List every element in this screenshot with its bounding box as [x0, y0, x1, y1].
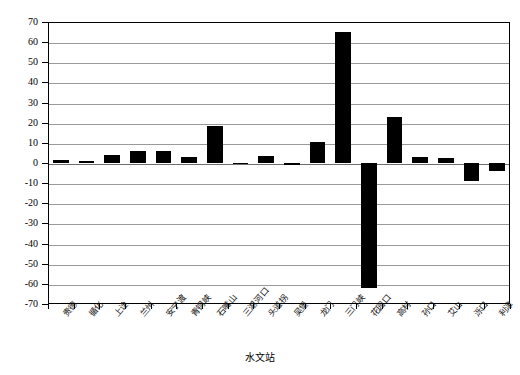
y-axis-tick-label: -10: [4, 178, 38, 188]
bar: [258, 156, 274, 163]
bar: [104, 155, 120, 163]
y-axis-tick-label: 50: [4, 57, 38, 67]
bar-chart: 输沙量比例/% 706050403020100-10-20-30-40-50-6…: [0, 0, 520, 375]
bar: [438, 158, 454, 163]
bar: [207, 126, 223, 163]
bar: [361, 163, 377, 288]
y-axis-tick-label: -40: [4, 239, 38, 249]
bar: [130, 151, 146, 163]
y-axis-tick-label: -50: [4, 259, 38, 269]
y-axis-tick-label: 60: [4, 37, 38, 47]
bar: [233, 163, 249, 164]
y-axis-tick-label: -60: [4, 279, 38, 289]
bar: [335, 32, 351, 163]
bar: [464, 163, 480, 181]
y-axis-tick-label: 70: [4, 17, 38, 27]
bar: [284, 163, 300, 165]
bar: [310, 142, 326, 163]
bar: [181, 157, 197, 163]
y-axis-tick-label: -20: [4, 198, 38, 208]
y-axis-tick-label: 30: [4, 98, 38, 108]
y-axis-tick-label: -70: [4, 299, 38, 309]
y-axis-tick-label: 10: [4, 138, 38, 148]
x-axis-title: 水文站: [0, 349, 520, 364]
y-axis-tick-label: -30: [4, 218, 38, 228]
y-axis-tick-label: 40: [4, 77, 38, 87]
bar: [156, 151, 172, 164]
y-axis-tick-label: 20: [4, 118, 38, 128]
bar: [79, 161, 95, 163]
bar: [412, 157, 428, 163]
x-axis-tick: [48, 304, 49, 309]
bar: [53, 160, 69, 163]
y-axis-tick-label: 0: [4, 158, 38, 168]
bars-layer: [48, 22, 510, 304]
bar: [489, 163, 505, 171]
bar: [387, 117, 403, 163]
